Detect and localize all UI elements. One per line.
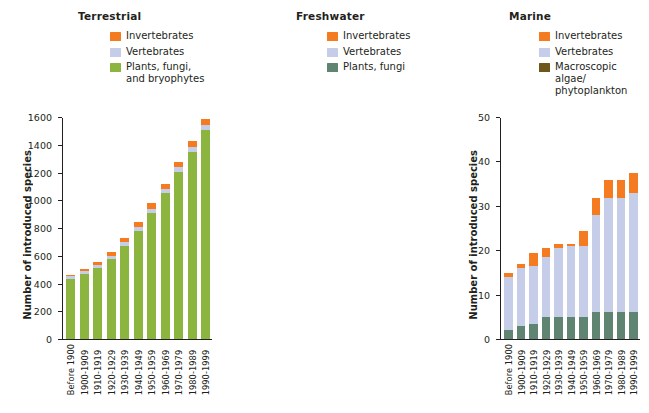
bar-segment xyxy=(201,130,210,339)
x-axis-label: 1940-1949 xyxy=(134,344,143,395)
bar-segment xyxy=(134,231,143,339)
legend-item[interactable]: Invertebrates xyxy=(327,30,410,42)
legend-item[interactable]: Vertebrates xyxy=(327,46,410,58)
panel-title: Marine xyxy=(509,10,551,22)
bar-segment xyxy=(147,213,156,339)
x-axis-label: 1980-1989 xyxy=(188,344,197,395)
bar-segment xyxy=(120,246,129,339)
legend-freshwater: Invertebrates Vertebrates Plants, fungi xyxy=(327,30,410,77)
legend-swatch-invertebrates xyxy=(327,32,338,41)
x-axis-label: 1930-1939 xyxy=(120,344,129,395)
y-axis-tick-label: 800 xyxy=(34,223,52,234)
legend-swatch-vertebrates xyxy=(539,48,550,57)
x-axis-label: 1920-1929 xyxy=(107,344,116,395)
y-axis-tick-label: 200 xyxy=(34,306,52,317)
x-axis-label: 1960-1969 xyxy=(161,344,170,395)
bar[interactable] xyxy=(93,118,102,339)
bar-segment xyxy=(161,193,170,339)
legend-label: Invertebrates xyxy=(343,30,410,42)
legend-item[interactable]: Plants, fungi, and bryophytes xyxy=(110,61,204,85)
y-axis-tick: 400 xyxy=(58,284,62,285)
x-axis-label: 1910-1919 xyxy=(93,344,102,395)
legend-item[interactable]: Plants, fungi xyxy=(327,61,410,73)
legend-label: Invertebrates xyxy=(126,30,193,42)
bar-segment xyxy=(107,259,116,339)
bar[interactable] xyxy=(134,118,143,339)
legend-item[interactable]: Macroscopic algae/ phytoplankton xyxy=(539,61,649,97)
legend-item[interactable]: Invertebrates xyxy=(539,30,649,42)
legend-label: Vertebrates xyxy=(343,46,401,58)
bar[interactable] xyxy=(120,118,129,339)
legend-swatch-algae xyxy=(539,63,550,72)
y-axis-tick-label: 1400 xyxy=(28,139,52,150)
y-axis-tick: 200 xyxy=(58,311,62,312)
y-axis-tick-label: 600 xyxy=(34,250,52,261)
panel-marine: Marine Invertebrates Vertebrates Macrosc… xyxy=(439,0,649,413)
legend-swatch-plants xyxy=(110,63,121,72)
bar[interactable] xyxy=(66,118,75,339)
x-axis-line xyxy=(62,339,212,340)
x-axis-label: 1950-1959 xyxy=(147,344,156,395)
y-axis-tick: 1200 xyxy=(58,173,62,174)
bar[interactable] xyxy=(80,118,89,339)
legend-label: Invertebrates xyxy=(555,30,622,42)
figure-panels: Terrestrial Invertebrates Vertebrates Pl… xyxy=(0,0,649,413)
y-axis-tick-label: 0 xyxy=(46,334,52,345)
bar-segment xyxy=(66,279,75,339)
legend-label: Plants, fungi, and bryophytes xyxy=(126,61,204,85)
plot-area-terrestrial: 02004006008001000120014001600 xyxy=(62,118,212,340)
x-axis-label: 1970-1979 xyxy=(174,344,183,395)
y-axis-tick: 0 xyxy=(58,339,62,340)
bar[interactable] xyxy=(174,118,183,339)
legend-item[interactable]: Invertebrates xyxy=(110,30,204,42)
y-axis-tick-label: 1000 xyxy=(28,195,52,206)
x-axis-labels-terrestrial: Before 19001900-19091910-19191920-192919… xyxy=(63,344,212,395)
legend-swatch-vertebrates xyxy=(110,48,121,57)
legend-swatch-plants xyxy=(327,63,338,72)
legend-terrestrial: Invertebrates Vertebrates Plants, fungi,… xyxy=(110,30,204,89)
panel-title: Terrestrial xyxy=(78,10,141,22)
y-axis-tick-label: 400 xyxy=(34,278,52,289)
legend-item[interactable]: Vertebrates xyxy=(539,46,649,58)
bar-segment xyxy=(80,274,89,339)
legend-marine: Invertebrates Vertebrates Macroscopic al… xyxy=(539,30,649,101)
legend-swatch-invertebrates xyxy=(110,32,121,41)
y-axis-tick: 600 xyxy=(58,256,62,257)
y-axis-tick: 1600 xyxy=(58,117,62,118)
panel-title: Freshwater xyxy=(296,10,365,22)
bar[interactable] xyxy=(107,118,116,339)
bar-segment xyxy=(93,268,102,339)
bar[interactable] xyxy=(201,118,210,339)
bar[interactable] xyxy=(147,118,156,339)
legend-label: Plants, fungi xyxy=(343,61,405,73)
bar-segment xyxy=(174,172,183,339)
legend-label: Vertebrates xyxy=(555,46,613,58)
bar[interactable] xyxy=(161,118,170,339)
x-axis-label: Before 1900 xyxy=(66,344,75,395)
y-axis-tick: 800 xyxy=(58,228,62,229)
y-axis-tick: 1400 xyxy=(58,145,62,146)
legend-item[interactable]: Vertebrates xyxy=(110,46,204,58)
panel-freshwater: Freshwater Invertebrates Vertebrates Pla… xyxy=(228,0,439,413)
legend-label: Vertebrates xyxy=(126,46,184,58)
bar-segment xyxy=(188,152,197,339)
bar[interactable] xyxy=(188,118,197,339)
y-axis-tick-label: 1200 xyxy=(28,167,52,178)
legend-label: Macroscopic algae/ phytoplankton xyxy=(555,61,649,97)
y-axis-tick: 1000 xyxy=(58,200,62,201)
y-axis-tick-label: 1600 xyxy=(28,112,52,123)
bars-terrestrial xyxy=(63,118,212,339)
x-axis-label: 1990-1999 xyxy=(201,344,210,395)
legend-swatch-vertebrates xyxy=(327,48,338,57)
panel-terrestrial: Terrestrial Invertebrates Vertebrates Pl… xyxy=(0,0,228,413)
x-axis-label: 1900-1909 xyxy=(80,344,89,395)
legend-swatch-invertebrates xyxy=(539,32,550,41)
